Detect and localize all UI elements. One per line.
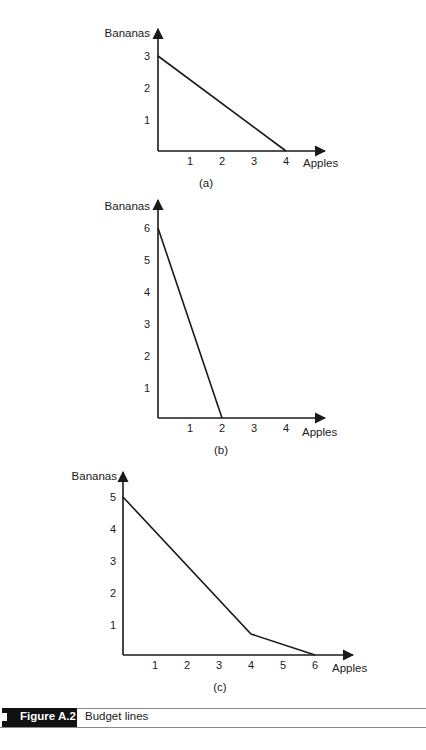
- y-tick: 1: [110, 619, 116, 631]
- x-tick: 4: [248, 659, 254, 671]
- x-tick: 3: [216, 659, 222, 671]
- x-tick: 5: [280, 659, 286, 671]
- budget-lines-figure: Bananas Apples 3 2 1 1 2 3 4 (a) Bananas…: [0, 0, 426, 750]
- x-tick: 1: [187, 422, 193, 434]
- caption-notch: [2, 713, 7, 721]
- y-tick: 4: [110, 523, 116, 535]
- y-tick: 3: [110, 555, 116, 567]
- y-tick: 5: [144, 254, 150, 266]
- figure-number: Figure A.2: [20, 710, 76, 722]
- x-tick: 3: [251, 155, 257, 167]
- figure-caption: Figure A.2 Budget lines: [0, 707, 426, 729]
- budget-line: [123, 497, 315, 655]
- x-axis-label: Apples: [303, 157, 338, 169]
- x-tick: 6: [312, 659, 318, 671]
- y-tick: 2: [144, 82, 150, 94]
- y-axis-label: Bananas: [72, 470, 118, 482]
- y-tick: 6: [144, 222, 150, 234]
- budget-line: [158, 56, 286, 151]
- y-axis-label: Bananas: [105, 27, 151, 39]
- y-tick: 5: [110, 491, 116, 503]
- chart-panel-c: Bananas Apples 5 4 3 2 1 1 2 3 4 5 6 (c): [72, 470, 368, 693]
- x-tick: 2: [184, 659, 190, 671]
- x-tick: 4: [283, 155, 289, 167]
- panel-label: (b): [214, 444, 228, 456]
- x-tick: 1: [152, 659, 158, 671]
- figure-title: Budget lines: [85, 710, 148, 722]
- y-tick: 2: [144, 350, 150, 362]
- caption-rule: [0, 727, 426, 728]
- chart-panel-b: Bananas Apples 6 5 4 3 2 1 1 2 3 4 (b): [105, 200, 338, 456]
- x-tick: 1: [187, 155, 193, 167]
- x-axis-label: Apples: [302, 426, 337, 438]
- panel-label: (c): [213, 681, 227, 693]
- y-tick: 4: [144, 286, 150, 298]
- caption-rule: [76, 708, 426, 709]
- y-tick: 1: [144, 114, 150, 126]
- panel-label: (a): [199, 177, 213, 189]
- y-tick: 2: [110, 587, 116, 599]
- x-tick: 3: [251, 422, 257, 434]
- x-axis-label: Apples: [332, 662, 367, 674]
- y-axis-label: Bananas: [105, 200, 151, 212]
- y-tick: 1: [144, 382, 150, 394]
- x-tick: 2: [219, 155, 225, 167]
- y-tick: 3: [144, 318, 150, 330]
- y-tick: 3: [144, 50, 150, 62]
- budget-line: [158, 228, 222, 418]
- x-tick: 2: [219, 422, 225, 434]
- x-tick: 4: [283, 422, 289, 434]
- chart-panel-a: Bananas Apples 3 2 1 1 2 3 4 (a): [105, 27, 339, 189]
